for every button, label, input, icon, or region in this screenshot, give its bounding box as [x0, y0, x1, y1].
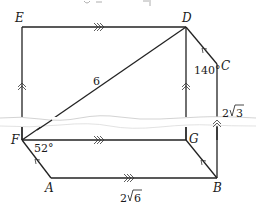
angle-label-C: 140°	[194, 64, 221, 77]
geometry-diagram: E D C B A F G 6 140° 52° 2 3 2 6	[0, 0, 256, 209]
vertex-label-C: C	[221, 59, 230, 73]
svg-text:2: 2	[120, 192, 127, 205]
torn-paper-band	[0, 116, 256, 140]
edge-DC	[186, 27, 217, 64]
vertex-label-E: E	[14, 11, 24, 25]
vertex-label-B: B	[212, 181, 222, 195]
length-label-FD: 6	[93, 75, 100, 88]
vertex-label-G: G	[189, 132, 199, 146]
vertex-label-A: A	[44, 181, 54, 195]
vertex-label-D: D	[181, 11, 192, 25]
vertex-label-F: F	[10, 133, 20, 147]
svg-text:2: 2	[222, 107, 229, 120]
length-label-AB: 2 6	[120, 190, 142, 205]
svg-text:3: 3	[236, 107, 243, 120]
cropped-caption-fragment	[84, 1, 151, 6]
svg-text:6: 6	[134, 192, 141, 205]
angle-label-F: 52°	[34, 142, 54, 155]
